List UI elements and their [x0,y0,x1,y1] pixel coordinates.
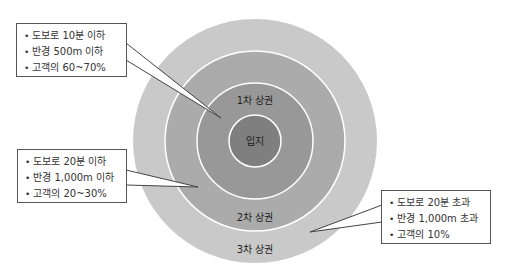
callout-item: 고객의 20~30% [25,186,120,202]
callout-item: 고객의 10% [389,227,484,243]
callout-item: 도보로 10분 이하 [24,28,120,44]
callout-1st-trade-area: 도보로 10분 이하 반경 500m 이하 고객의 60~70% [16,23,127,77]
callout-item: 고객의 60~70% [24,60,120,76]
label-1st-trade-area: 1차 상권 [237,95,274,106]
callout-list: 도보로 10분 이하 반경 500m 이하 고객의 60~70% [24,28,120,76]
callout-item: 반경 500m 이하 [24,44,120,60]
callout-item: 도보로 20분 초과 [389,195,484,211]
label-location: 입지 [246,135,264,147]
label-2nd-trade-area: 2차 상권 [237,212,274,223]
callout-item: 반경 1,000m 이하 [25,170,120,186]
callout-item: 반경 1,000m 초과 [389,211,484,227]
callout-list: 도보로 20분 이하 반경 1,000m 이하 고객의 20~30% [25,154,120,202]
callout-item: 도보로 20분 이하 [25,154,120,170]
label-3rd-trade-area: 3차 상권 [237,244,274,255]
callout-list: 도보로 20분 초과 반경 1,000m 초과 고객의 10% [389,195,484,243]
callout-3rd-trade-area: 도보로 20분 초과 반경 1,000m 초과 고객의 10% [381,190,491,244]
callout-2nd-trade-area: 도보로 20분 이하 반경 1,000m 이하 고객의 20~30% [17,149,127,203]
